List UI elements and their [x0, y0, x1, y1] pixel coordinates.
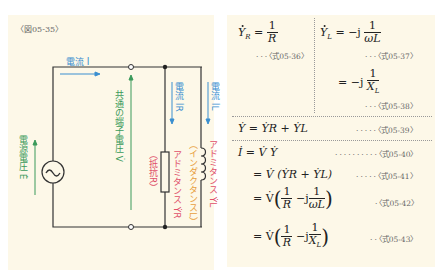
equation-05-37: YL = −j 1ωL [320, 20, 381, 45]
divider-vertical [314, 18, 315, 113]
current-l-label: 電流 İL [210, 82, 219, 111]
equation-05-38: = −j 1XL [338, 68, 379, 97]
current-r-label: 電流 İR [174, 82, 183, 112]
ref-05-42: ·〈式05-42〉 [375, 197, 418, 208]
equation-05-40: İ = V̇ Ẏ [238, 146, 277, 159]
inductor-label: （インダクタンスL） [188, 140, 197, 226]
resistor-label: （抵抗R） [148, 150, 157, 192]
ref-05-43: ··〈式05-43〉 [370, 233, 417, 244]
equation-05-41: = V̇ (ẎR + ẎL) [253, 168, 332, 181]
ref-05-39: ·····〈式05-39〉 [356, 124, 417, 135]
terminal-voltage-label: 共通の端子電圧 V̇ [114, 90, 123, 162]
divider-2 [232, 140, 432, 141]
divider-1 [232, 116, 432, 117]
ref-05-40: ··········〈式05-40〉 [335, 148, 417, 159]
equation-05-39: Ẏ = ẎR + ẎL [238, 122, 308, 135]
equation-05-43: = V̇(1R −j1XL) [253, 222, 329, 251]
ref-05-37: ···〈式05-37〉 [365, 50, 417, 61]
source-voltage-label: 電源電圧 Ė [18, 135, 27, 180]
ref-05-38: ···〈式05-38〉 [365, 100, 417, 111]
circuit-diagram [0, 0, 220, 272]
admittance-l-label: アドミタンス ẎL [208, 140, 217, 207]
admittance-r-label: アドミタンス ẎR [172, 150, 181, 219]
equation-05-36: YR = 1R [238, 20, 278, 45]
ref-05-36: ···〈式05-36〉 [256, 50, 308, 61]
equation-05-42: = V̇(1R −j1ωL) [253, 186, 333, 211]
current-main-label: 電流 İ [66, 55, 90, 68]
ref-05-41: ·····〈式05-41〉 [356, 170, 417, 181]
